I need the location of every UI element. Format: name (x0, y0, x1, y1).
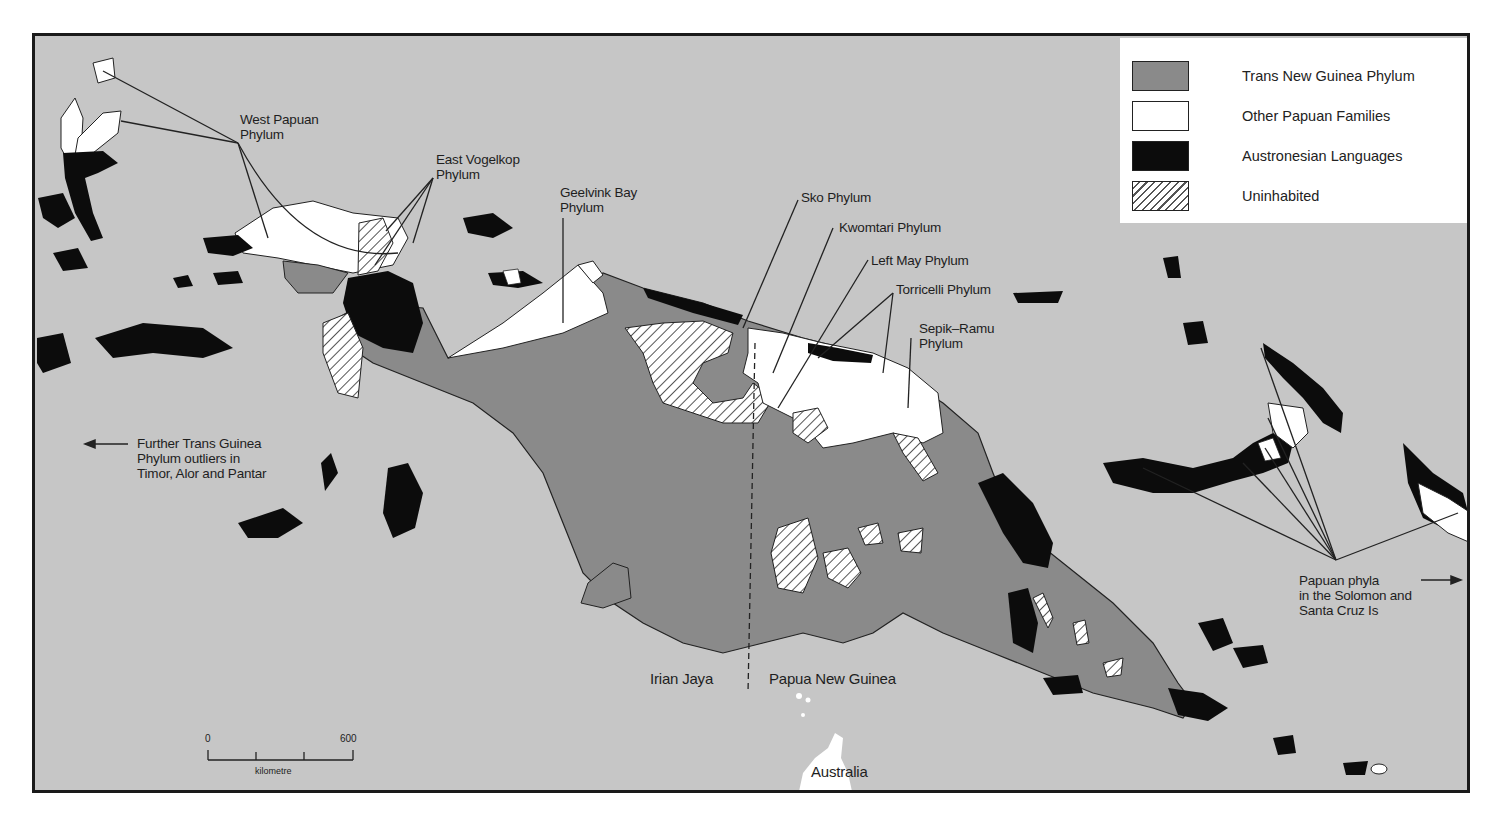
label-line: Santa Cruz Is (1299, 603, 1412, 618)
label-line: Phylum (240, 127, 319, 142)
label-line: Phylum (919, 336, 994, 351)
label-west-papuan: West Papuan Phylum (240, 112, 319, 142)
label-line: Phylum (560, 200, 637, 215)
legend-label: Uninhabited (1242, 188, 1319, 204)
label-left-may: Left May Phylum (871, 253, 969, 268)
label-line: Papuan phyla (1299, 573, 1412, 588)
halmahera-austronesian (63, 151, 118, 241)
legend-item-other-papuan: Other Papuan Families (1132, 101, 1462, 133)
legend-label: Other Papuan Families (1242, 108, 1390, 124)
label-sko: Sko Phylum (801, 190, 871, 205)
map-frame: Trans New Guinea Phylum Other Papuan Fam… (32, 33, 1470, 793)
label-kwomtari: Kwomtari Phylum (839, 220, 941, 235)
label-line: Further Trans Guinea (137, 436, 266, 451)
scale-bar: 0 600 kilometre (205, 733, 365, 778)
aru-islands-austronesian (383, 463, 423, 538)
label-australia: Australia (811, 763, 868, 780)
label-line: Sepik–Ramu (919, 321, 994, 336)
label-line: Phylum (436, 167, 520, 182)
legend-label: Trans New Guinea Phylum (1242, 68, 1415, 84)
legend-swatch-other-papuan (1132, 101, 1189, 131)
label-line: Timor, Alor and Pantar (137, 466, 266, 481)
legend: Trans New Guinea Phylum Other Papuan Fam… (1120, 38, 1470, 223)
label-papua-new-guinea: Papua New Guinea (769, 670, 896, 687)
label-further-tng: Further Trans Guinea Phylum outliers in … (137, 436, 266, 481)
label-torricelli: Torricelli Phylum (896, 282, 991, 297)
seram-austronesian (95, 323, 233, 358)
label-irian-jaya: Irian Jaya (650, 670, 713, 687)
legend-item-uninhabited: Uninhabited (1132, 181, 1462, 213)
legend-item-austronesian: Austronesian Languages (1132, 141, 1462, 173)
label-east-vogelkop: East Vogelkop Phylum (436, 152, 520, 182)
legend-swatch-uninhabited (1132, 181, 1189, 211)
legend-label: Austronesian Languages (1242, 148, 1402, 164)
label-geelvink-bay: Geelvink Bay Phylum (560, 185, 637, 215)
legend-swatch-austronesian (1132, 141, 1189, 171)
label-line: in the Solomon and (1299, 588, 1412, 603)
label-line: East Vogelkop (436, 152, 520, 167)
legend-item-trans-new-guinea: Trans New Guinea Phylum (1132, 61, 1462, 93)
legend-swatch-trans-new-guinea (1132, 61, 1189, 91)
label-line: Phylum outliers in (137, 451, 266, 466)
label-papuan-solomon: Papuan phyla in the Solomon and Santa Cr… (1299, 573, 1412, 618)
label-line: Geelvink Bay (560, 185, 637, 200)
label-line: West Papuan (240, 112, 319, 127)
label-sepik-ramu: Sepik–Ramu Phylum (919, 321, 994, 351)
scale-unit: kilometre (255, 766, 292, 776)
